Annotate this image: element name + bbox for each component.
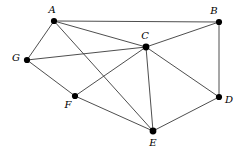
vertex-label-d: D bbox=[224, 94, 233, 105]
graph-vertex-e[interactable] bbox=[150, 128, 157, 135]
graph-edge-g-f bbox=[27, 60, 75, 96]
graph-vertex-g[interactable] bbox=[24, 57, 30, 63]
graph-figure: ABCGFDE bbox=[0, 0, 245, 153]
edge-layer bbox=[27, 21, 219, 131]
graph-vertex-f[interactable] bbox=[72, 93, 78, 99]
graph-edge-a-g bbox=[27, 21, 54, 60]
graph-vertex-c[interactable] bbox=[143, 44, 150, 51]
vertex-label-c: C bbox=[141, 30, 149, 41]
graph-vertex-b[interactable] bbox=[216, 19, 222, 25]
graph-edge-b-c bbox=[146, 22, 219, 47]
graph-edge-c-f bbox=[75, 47, 146, 96]
vertex-layer bbox=[24, 18, 222, 134]
vertex-label-g: G bbox=[12, 52, 20, 63]
vertex-label-b: B bbox=[209, 5, 217, 16]
vertex-label-e: E bbox=[148, 137, 157, 148]
graph-vertex-a[interactable] bbox=[51, 18, 57, 24]
label-layer: ABCGFDE bbox=[12, 4, 233, 148]
graph-edge-c-d bbox=[146, 47, 219, 97]
graph-edge-f-e bbox=[75, 96, 153, 131]
graph-canvas: ABCGFDE bbox=[0, 0, 245, 153]
graph-edge-c-e bbox=[146, 47, 153, 131]
graph-vertex-d[interactable] bbox=[216, 94, 222, 100]
graph-edge-a-c bbox=[54, 21, 146, 47]
graph-edge-c-g bbox=[27, 47, 146, 60]
vertex-label-f: F bbox=[64, 99, 73, 110]
vertex-label-a: A bbox=[47, 4, 55, 15]
graph-edge-e-d bbox=[153, 97, 219, 131]
graph-edge-a-b bbox=[54, 21, 219, 22]
